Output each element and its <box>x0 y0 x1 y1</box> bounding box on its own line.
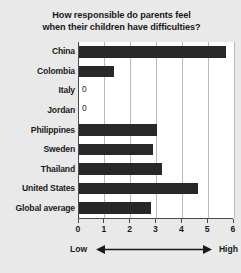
bar-row: 0 <box>79 81 234 101</box>
category-label: China <box>1 46 75 56</box>
bar <box>79 183 198 195</box>
x-tick <box>155 219 156 223</box>
category-label: Global average <box>1 203 75 213</box>
bar-row <box>79 140 234 160</box>
category-label: Thailand <box>1 164 75 174</box>
bar-row <box>79 179 234 199</box>
chart-figure: How responsible do parents feel when the… <box>0 0 241 273</box>
category-label: Philippines <box>1 125 75 135</box>
x-tick <box>207 219 208 223</box>
bar <box>79 144 153 156</box>
bar-value-label: 0 <box>82 103 87 113</box>
x-tick-label: 4 <box>172 224 190 234</box>
category-label: Sweden <box>1 144 75 154</box>
chart-title-line-2: when their children have difficulties? <box>8 22 235 34</box>
bar-row: 0 <box>79 101 234 121</box>
x-tick-label: 5 <box>198 224 216 234</box>
bar <box>79 46 226 58</box>
chart-title: How responsible do parents feel when the… <box>8 10 235 33</box>
bar <box>79 66 114 78</box>
chart-title-line-1: How responsible do parents feel <box>8 10 235 22</box>
x-tick <box>233 219 234 223</box>
axis-low-label: Low <box>70 244 87 254</box>
category-label: Jordan <box>1 105 75 115</box>
plot-area: 00 <box>78 42 234 218</box>
x-tick-label: 1 <box>95 224 113 234</box>
bar-row <box>79 62 234 82</box>
axis-caption: Low High <box>70 242 238 258</box>
bar <box>79 163 162 175</box>
x-tick-label: 3 <box>147 224 165 234</box>
category-axis-labels: ChinaColombiaItalyJordanPhilippinesSwede… <box>0 42 75 218</box>
bar-row <box>79 42 234 62</box>
x-tick-label: 0 <box>69 224 87 234</box>
x-tick <box>129 219 130 223</box>
double-arrow-icon <box>96 243 212 256</box>
bar-row <box>79 120 234 140</box>
bar <box>79 124 157 136</box>
bar <box>79 202 151 214</box>
bar-value-label: 0 <box>82 84 87 94</box>
category-label: Colombia <box>1 66 75 76</box>
x-tick <box>78 219 79 223</box>
category-label: Italy <box>1 85 75 95</box>
axis-high-label: High <box>219 244 238 254</box>
x-tick-label: 2 <box>121 224 139 234</box>
x-tick <box>103 219 104 223</box>
x-tick <box>181 219 182 223</box>
bar-row <box>79 198 234 218</box>
bar-row <box>79 159 234 179</box>
x-tick-label: 6 <box>224 224 241 234</box>
category-label: United States <box>1 183 75 193</box>
